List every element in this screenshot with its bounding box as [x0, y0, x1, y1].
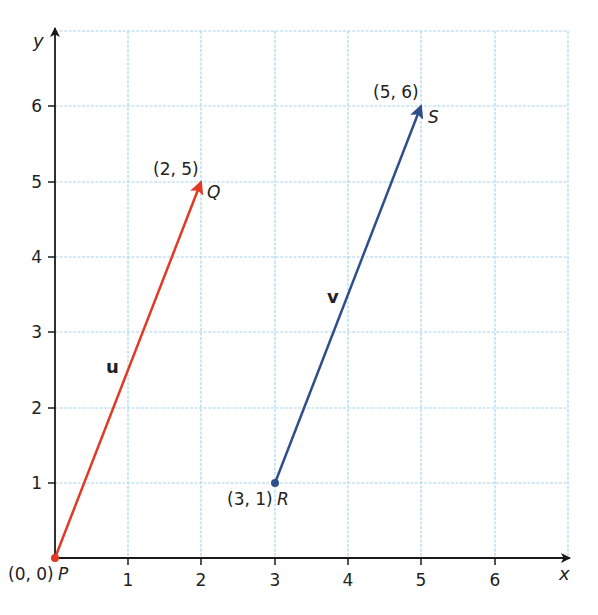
x-tick-1: 1 — [123, 570, 134, 590]
y-tick-labels: 1 2 3 4 5 6 — [31, 96, 42, 493]
y-tick-6: 6 — [31, 96, 42, 116]
y-tick-2: 2 — [31, 398, 42, 418]
coordinate-plane: 1 2 3 4 5 6 1 2 3 4 5 6 y x u v (0, 0) P… — [0, 0, 598, 615]
point-s-name: S — [428, 107, 439, 127]
x-tick-4: 4 — [343, 570, 354, 590]
point-q-name: Q — [207, 182, 220, 202]
vector-diagram: 1 2 3 4 5 6 1 2 3 4 5 6 y x u v (0, 0) P… — [0, 0, 598, 615]
grid — [55, 31, 568, 558]
point-s-coord: (5, 6) — [373, 82, 419, 102]
x-tick-6: 6 — [490, 570, 501, 590]
y-tick-3: 3 — [31, 322, 42, 342]
point-r-dot — [271, 479, 279, 487]
point-p-coord: (0, 0) — [8, 564, 54, 584]
point-p-name: P — [58, 564, 69, 584]
x-tick-5: 5 — [416, 570, 427, 590]
point-r-name: R — [277, 489, 289, 509]
y-tick-1: 1 — [31, 473, 42, 493]
y-axis-label: y — [32, 30, 44, 51]
point-q-coord: (2, 5) — [153, 159, 199, 179]
point-p-dot — [51, 554, 59, 562]
y-tick-5: 5 — [31, 172, 42, 192]
point-r-coord: (3, 1) — [227, 489, 273, 509]
vector-v-label: v — [327, 286, 339, 307]
x-tick-labels: 1 2 3 4 5 6 — [123, 570, 501, 590]
x-tick-2: 2 — [196, 570, 207, 590]
x-axis-label: x — [558, 563, 570, 584]
vector-u-label: u — [106, 356, 119, 377]
y-tick-4: 4 — [31, 247, 42, 267]
x-tick-3: 3 — [270, 570, 281, 590]
